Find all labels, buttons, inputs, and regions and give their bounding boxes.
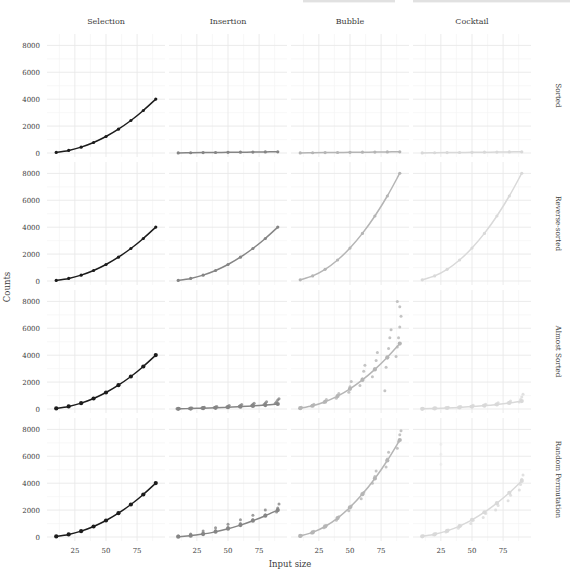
curve-point — [154, 353, 158, 357]
panel-selection-sorted — [47, 34, 165, 157]
curve-point — [239, 256, 242, 259]
curve-point — [520, 399, 524, 403]
data-point — [264, 509, 267, 512]
data-point — [522, 393, 525, 396]
facet-grid-chart: SelectionInsertionBubbleCocktailSortedRe… — [0, 0, 570, 584]
curve-point — [80, 274, 83, 277]
curve-point — [67, 532, 71, 536]
outlier-point — [439, 453, 442, 456]
x-tick-label: 75 — [499, 547, 508, 555]
curve-point — [104, 390, 108, 394]
panel-insertion-reverse-sorted — [169, 162, 287, 285]
y-tick-label: 0 — [36, 534, 40, 542]
curve-point — [80, 146, 83, 149]
y-tick-label: 8000 — [22, 426, 40, 434]
x-tick-label: 75 — [377, 547, 386, 555]
panel-cocktail-random-permutation — [413, 418, 531, 541]
y-tick-label: 0 — [36, 406, 40, 414]
curve-point — [433, 274, 436, 277]
panel-insertion-almost-sorted — [169, 290, 287, 413]
curve-point — [445, 529, 449, 533]
data-point — [518, 488, 521, 491]
curve-point — [226, 151, 229, 154]
data-point — [482, 516, 485, 519]
curve-point — [385, 355, 389, 359]
curve-point — [420, 534, 424, 538]
data-point — [469, 522, 472, 525]
x-tick-label: 25 — [314, 547, 323, 555]
curve-point — [92, 269, 95, 272]
curve-point — [361, 232, 364, 235]
curve-point — [386, 150, 389, 153]
panel-cocktail-sorted — [413, 34, 531, 157]
curve-point — [251, 247, 254, 250]
curve-point — [92, 141, 95, 144]
curve-point — [311, 530, 315, 534]
curve-point — [91, 396, 95, 400]
y-tick-label: 8000 — [22, 42, 40, 50]
y-tick-label: 0 — [36, 278, 40, 286]
curve-point — [361, 151, 364, 154]
curve-point — [420, 407, 424, 411]
data-point — [350, 380, 353, 383]
curve-point — [54, 534, 58, 538]
curve-point — [311, 151, 314, 154]
curve-point — [458, 258, 461, 261]
x-tick-label: 25 — [192, 547, 201, 555]
curve-point — [433, 406, 437, 410]
curve-point — [154, 481, 158, 485]
data-point — [358, 384, 361, 387]
y-tick-label: 2000 — [22, 251, 40, 259]
curve-point — [55, 279, 58, 282]
curve-point — [154, 98, 157, 101]
curve-point — [276, 150, 279, 153]
y-tick-label: 8000 — [22, 170, 40, 178]
curve-point — [483, 151, 486, 154]
curve-point — [495, 214, 498, 217]
curve-point — [398, 342, 402, 346]
panel-cocktail-almost-sorted — [413, 290, 531, 413]
y-axis-title: Counts — [2, 272, 12, 302]
x-tick-label: 75 — [255, 547, 264, 555]
curve-point — [129, 247, 132, 250]
curve-point — [398, 172, 401, 175]
curve-point — [104, 135, 107, 138]
x-tick-label: 50 — [468, 547, 477, 555]
curve-point — [508, 194, 511, 197]
curve-point — [189, 534, 193, 538]
data-point — [371, 375, 374, 378]
curve-point — [264, 237, 267, 240]
x-tick-label: 50 — [346, 547, 355, 555]
curve-point — [276, 226, 279, 229]
panel-bubble-reverse-sorted — [291, 162, 409, 285]
curve-point — [67, 277, 70, 280]
curve-point — [360, 378, 364, 382]
curve-point — [324, 268, 327, 271]
curve-point — [457, 524, 461, 528]
curve-point — [335, 394, 339, 398]
data-point — [363, 364, 366, 367]
curve-point — [141, 364, 145, 368]
curve-point — [421, 278, 424, 281]
y-tick-label: 0 — [36, 150, 40, 158]
panel-insertion-random-permutation — [169, 418, 287, 541]
x-tick-label: 75 — [133, 547, 142, 555]
x-tick-label: 25 — [436, 547, 445, 555]
curve-point — [298, 406, 302, 410]
data-point — [398, 305, 401, 308]
curve-point — [276, 508, 280, 512]
curve-point — [251, 150, 254, 153]
curve-point — [177, 151, 180, 154]
curve-point — [445, 406, 449, 410]
panel-insertion-sorted — [169, 34, 287, 157]
x-tick-label: 25 — [70, 547, 79, 555]
curve-point — [129, 374, 133, 378]
curve-point — [276, 402, 280, 406]
data-point — [387, 347, 390, 350]
curve-point — [398, 150, 401, 153]
curve-point — [202, 151, 205, 154]
column-header-cocktail: Cocktail — [455, 17, 489, 26]
curve-point — [154, 226, 157, 229]
data-point — [398, 325, 401, 328]
curve-point — [213, 406, 217, 410]
